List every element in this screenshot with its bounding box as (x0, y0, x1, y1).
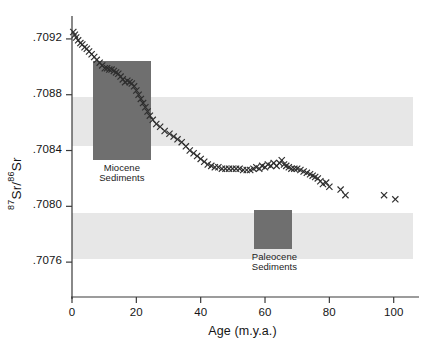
data-points-layer (0, 0, 430, 352)
x-tick-label: 0 (50, 306, 94, 318)
x-tick-label: 60 (243, 306, 287, 318)
x-tick-label: 40 (179, 306, 223, 318)
x-tick-label: 80 (307, 306, 351, 318)
data-point (381, 192, 387, 198)
data-point (326, 184, 332, 190)
y-axis-title-sr: Sr (9, 157, 24, 171)
miocene-label-line2: Sediments (99, 172, 144, 183)
miocene-label-line1: Miocene (104, 162, 140, 173)
y-tick-label: .7088 (10, 87, 62, 99)
data-point (153, 121, 159, 127)
y-axis-title-superscript-86: 86 (6, 171, 16, 181)
miocene-sediments-label: MioceneSediments (82, 163, 162, 184)
data-point (392, 196, 398, 202)
y-tick-label: .7076 (10, 254, 62, 266)
data-point (342, 192, 348, 198)
y-axis-title-sr-slash: Sr/ (9, 181, 24, 199)
paleocene-label-line1: Paleocene (252, 251, 297, 262)
paleocene-label-line2: Sediments (252, 261, 297, 272)
x-tick-label: 20 (114, 306, 158, 318)
y-tick-label: .7084 (10, 143, 62, 155)
strontium-isotope-scatter-chart: .7092 .7088 .7084 .7080 .7076 0 20 40 60… (0, 0, 430, 352)
x-tick-label: 100 (372, 306, 416, 318)
y-tick-label: .7092 (10, 31, 62, 43)
data-point (187, 147, 193, 153)
y-axis-title: 87Sr/86Sr (6, 157, 24, 210)
x-axis-title: Age (m.y.a.) (153, 324, 333, 338)
y-axis-title-superscript-87: 87 (6, 199, 16, 209)
paleocene-sediments-label: PaleoceneSediments (252, 252, 322, 273)
